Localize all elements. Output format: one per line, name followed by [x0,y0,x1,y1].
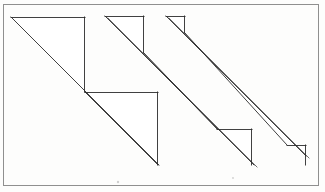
shape-fold-middle [105,16,257,167]
figure-svg [0,0,325,192]
paper-speck [117,181,119,183]
fold-back-short-diagonal [185,33,287,145]
drawing-canvas: Stepped Folded Planes — Wireframe Perspe… [0,0,325,192]
paper-speck [232,177,234,179]
